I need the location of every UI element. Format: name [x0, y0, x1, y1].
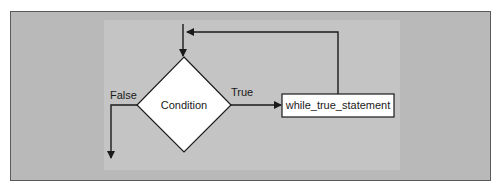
false-label: False [110, 89, 137, 101]
false-arrow [111, 105, 137, 158]
true-label: True [231, 86, 253, 98]
statement-label: while_true_statement [285, 99, 391, 111]
flowchart-canvas: Condition True False while_true_statemen… [0, 0, 500, 192]
condition-label: Condition [161, 99, 207, 111]
